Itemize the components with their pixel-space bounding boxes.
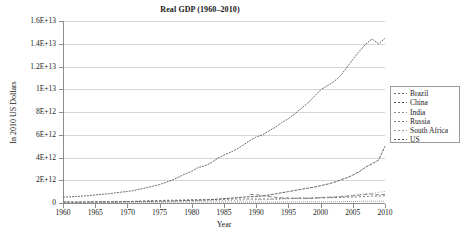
- x-axis-tick-mark: [127, 204, 128, 208]
- y-axis-tick-labels: 02E+124E+126E+128E+121E+131.2E+131.4E+13…: [18, 0, 56, 240]
- y-axis-tick-label: 1.6E+13: [20, 17, 56, 25]
- x-axis-tick-labels: 1960196519701975198019851990199520002005…: [0, 208, 464, 220]
- chart-title: Real GDP (1960–2010): [0, 5, 400, 14]
- legend-swatch-icon: [394, 130, 407, 131]
- y-axis-tick-label: 0: [20, 199, 56, 207]
- legend-swatch-icon: [394, 102, 407, 103]
- y-axis-tick-mark: [59, 89, 63, 90]
- y-axis-tick-label: 1.2E+13: [20, 63, 56, 71]
- y-axis-tick-label: 4E+12: [20, 154, 56, 162]
- legend-swatch-icon: [394, 93, 407, 94]
- y-axis-tick-label: 2E+12: [20, 176, 56, 184]
- y-axis-tick-mark: [59, 158, 63, 159]
- x-axis-tick-mark: [160, 204, 161, 208]
- legend-item-us[interactable]: US: [393, 135, 457, 144]
- legend-item-russia[interactable]: Russia: [393, 117, 457, 126]
- y-axis-tick-label: 1E+13: [20, 85, 56, 93]
- legend-swatch-icon: [394, 139, 407, 140]
- legend-item-south-africa[interactable]: South Africa: [393, 126, 457, 135]
- chart-container: Real GDP (1960–2010) 02E+124E+126E+128E+…: [0, 0, 464, 240]
- y-axis-title: In 2010 US Dollars: [9, 58, 18, 168]
- legend-label: Brazil: [410, 89, 428, 98]
- y-axis-tick-mark: [59, 67, 63, 68]
- legend: BrazilChinaIndiaRussiaSouth AfricaUS: [390, 86, 460, 143]
- legend-item-china[interactable]: China: [393, 98, 457, 107]
- x-axis-tick-mark: [63, 204, 64, 208]
- x-axis-tick-mark: [256, 204, 257, 208]
- x-axis-tick-label: 2010: [365, 208, 405, 217]
- x-axis-tick-mark: [385, 204, 386, 208]
- y-axis-tick-mark: [59, 21, 63, 22]
- y-axis-tick-label: 6E+12: [20, 131, 56, 139]
- legend-label: India: [410, 108, 425, 117]
- y-axis-tick-label: 8E+12: [20, 108, 56, 116]
- y-axis-tick-label: 1.4E+13: [20, 40, 56, 48]
- x-axis-tick-mark: [321, 204, 322, 208]
- legend-label: US: [410, 135, 420, 144]
- x-axis-tick-mark: [192, 204, 193, 208]
- legend-label: Russia: [410, 117, 430, 126]
- y-axis-tick-mark: [59, 112, 63, 113]
- y-axis-tick-mark: [59, 180, 63, 181]
- y-axis-tick-mark: [59, 44, 63, 45]
- x-axis-title: Year: [63, 220, 385, 229]
- series-lines: [63, 21, 385, 203]
- y-axis-tick-mark: [59, 135, 63, 136]
- x-axis-tick-mark: [95, 204, 96, 208]
- series-line-us: [63, 38, 385, 197]
- x-axis-tick-mark: [288, 204, 289, 208]
- legend-label: China: [410, 98, 428, 107]
- legend-item-india[interactable]: India: [393, 108, 457, 117]
- x-axis-tick-mark: [224, 204, 225, 208]
- legend-swatch-icon: [394, 121, 407, 122]
- legend-item-brazil[interactable]: Brazil: [393, 89, 457, 98]
- legend-swatch-icon: [394, 112, 407, 113]
- legend-label: South Africa: [410, 126, 448, 135]
- x-axis-tick-mark: [353, 204, 354, 208]
